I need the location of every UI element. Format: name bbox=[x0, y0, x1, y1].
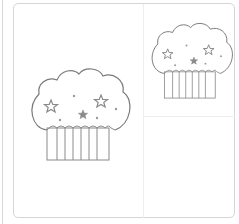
large-cupcake bbox=[32, 69, 130, 160]
cupcake-drawing bbox=[0, 0, 239, 224]
small-cupcake bbox=[152, 23, 232, 98]
